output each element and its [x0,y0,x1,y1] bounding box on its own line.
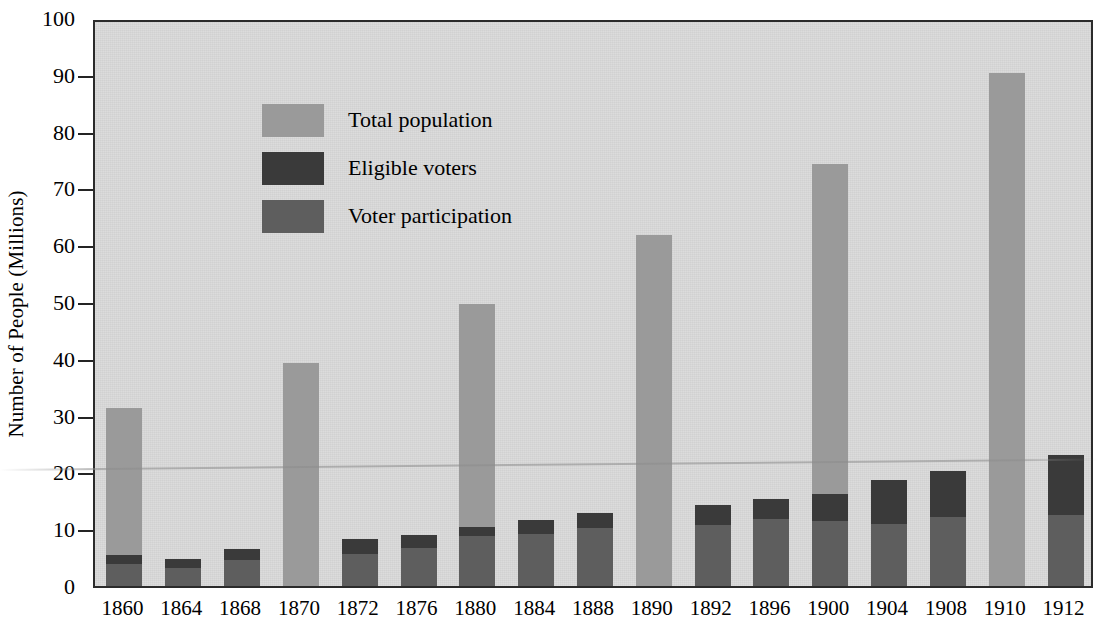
segment-voter-participation [224,560,260,586]
segment-total-population [106,408,142,556]
bar-1912[interactable] [1048,18,1084,586]
segment-voter-participation [930,517,966,586]
segment-eligible-voters [871,480,907,523]
legend-label: Voter participation [348,200,512,232]
legend-item[interactable]: Voter participation [262,196,562,244]
y-axis-tick-label: 100 [15,8,75,30]
y-axis-tick-label: 0 [15,576,75,598]
bar-1900[interactable] [812,18,848,586]
segment-eligible-voters [106,555,142,564]
segment-voter-participation [812,521,848,586]
segment-voter-participation [871,524,907,586]
segment-eligible-voters [577,513,613,528]
legend-item[interactable]: Total population [262,100,562,148]
segment-voter-participation [401,548,437,586]
segment-voter-participation [342,554,378,586]
legend-swatch [262,152,324,185]
segment-voter-participation [459,536,495,586]
segment-total-population [283,363,319,586]
y-axis-tick-label: 60 [15,235,75,257]
segment-total-population [636,235,672,586]
segment-voter-participation [753,519,789,586]
legend-item[interactable]: Eligible voters [262,148,562,196]
y-axis-tick-label: 80 [15,122,75,144]
y-axis-tick-label: 70 [15,178,75,200]
bar-1896[interactable] [753,18,789,586]
y-axis-tick-label: 10 [15,519,75,541]
segment-eligible-voters [165,559,201,568]
bar-1888[interactable] [577,18,613,586]
bar-1892[interactable] [695,18,731,586]
legend-swatch [262,104,324,137]
y-axis-tick-label: 20 [15,462,75,484]
segment-voter-participation [518,534,554,586]
segment-eligible-voters [812,494,848,521]
y-axis-tick-label: 40 [15,349,75,371]
segment-eligible-voters [224,549,260,560]
legend-label: Total population [348,104,493,136]
segment-eligible-voters [695,505,731,524]
y-axis-tick-label: 30 [15,406,75,428]
bar-chart: Number of People (Millions) 010203040506… [0,0,1098,636]
bar-1908[interactable] [930,18,966,586]
segment-voter-participation [1048,515,1084,586]
segment-eligible-voters [342,539,378,554]
bar-1904[interactable] [871,18,907,586]
segment-eligible-voters [930,471,966,518]
segment-voter-participation [577,528,613,586]
bar-1860[interactable] [106,18,142,586]
segment-eligible-voters [459,527,495,536]
segment-total-population [459,304,495,527]
bar-1890[interactable] [636,18,672,586]
segment-voter-participation [165,568,201,586]
bar-1864[interactable] [165,18,201,586]
bar-1868[interactable] [224,18,260,586]
legend: Total populationEligible votersVoter par… [262,100,562,244]
segment-voter-participation [106,564,142,586]
bar-1910[interactable] [989,18,1025,586]
x-axis-tick-label: 1912 [1028,596,1098,620]
plot-area: Total populationEligible votersVoter par… [93,20,1093,588]
legend-label: Eligible voters [348,152,477,184]
segment-total-population [989,73,1025,586]
segment-eligible-voters [518,520,554,534]
legend-swatch [262,200,324,233]
segment-voter-participation [695,525,731,586]
segment-total-population [812,164,848,494]
segment-eligible-voters [401,535,437,548]
segment-eligible-voters [1048,455,1084,515]
segment-eligible-voters [753,499,789,519]
y-axis-tick-label: 50 [15,292,75,314]
y-axis-tick-label: 90 [15,65,75,87]
